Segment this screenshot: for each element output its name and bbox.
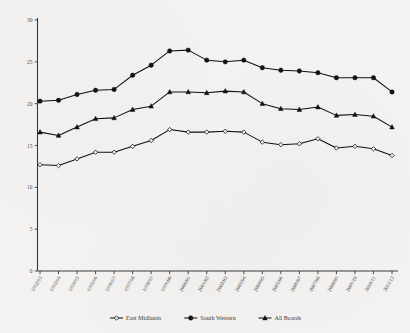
x-axis-tick-label: 1995/96 — [85, 275, 99, 293]
data-point — [56, 163, 60, 167]
data-point — [205, 58, 209, 62]
x-axis-tick-label: 1999/00 — [159, 275, 173, 293]
legend-marker-icon — [114, 316, 118, 320]
x-axis-tick-label: 1992/93 — [30, 275, 44, 293]
legend-item-south-western[interactable]: South Western — [184, 315, 235, 321]
data-point — [316, 71, 320, 75]
data-point — [112, 87, 116, 91]
y-axis: 051015202530 — [27, 17, 37, 274]
data-point — [38, 163, 42, 167]
x-axis: 1992/931993/941994/951995/961996/971997/… — [30, 271, 398, 292]
data-point — [93, 88, 97, 92]
data-point — [353, 76, 357, 80]
x-axis-tick-label: 2011/12 — [382, 275, 396, 293]
y-axis-tick-label: 15 — [27, 143, 33, 149]
data-point — [149, 138, 153, 142]
data-point — [260, 140, 264, 144]
y-axis-tick-label: 25 — [27, 59, 33, 65]
series-south-western — [38, 48, 394, 103]
data-point — [260, 101, 265, 105]
series-layer — [38, 48, 395, 168]
x-axis-tick-label: 2001/02 — [196, 275, 210, 293]
data-point — [167, 49, 171, 53]
data-point — [186, 130, 190, 134]
data-point — [279, 142, 283, 146]
series-all-boards — [38, 89, 395, 138]
line-chart: 051015202530 1992/931993/941994/951995/9… — [0, 0, 410, 333]
legend-label: South Western — [200, 315, 235, 321]
x-axis-tick-label: 1998/99 — [141, 275, 155, 293]
legend-label: East Midlands — [126, 315, 162, 321]
y-axis-tick-label: 0 — [30, 268, 33, 274]
data-point — [334, 76, 338, 80]
legend-marker-icon — [189, 316, 193, 320]
x-axis-tick-label: 2006/07 — [289, 275, 303, 293]
data-point — [260, 65, 264, 69]
x-axis-tick-label: 1993/94 — [48, 275, 62, 293]
data-point — [205, 130, 209, 134]
data-point — [223, 129, 227, 133]
x-axis-tick-label: 1994/95 — [67, 275, 81, 293]
data-point — [353, 144, 357, 148]
chart-legend: East MidlandsSouth WesternAll Boards — [110, 315, 302, 321]
data-point — [242, 58, 246, 62]
series-line — [40, 91, 392, 135]
data-point — [38, 99, 42, 103]
data-point — [112, 150, 116, 154]
data-point — [38, 130, 43, 134]
data-point — [56, 98, 60, 102]
data-point — [223, 60, 227, 64]
x-axis-tick-label: 1997/98 — [122, 275, 136, 293]
x-axis-tick-label: 2004/05 — [252, 275, 266, 293]
x-axis-tick-label: 1996/97 — [104, 275, 118, 293]
data-point — [130, 144, 134, 148]
chart-figure: 051015202530 1992/931993/941994/951995/9… — [0, 0, 410, 333]
data-point — [297, 69, 301, 73]
data-point — [390, 153, 394, 157]
data-point — [75, 157, 79, 161]
x-axis-tick-label: 2010/11 — [363, 275, 377, 293]
y-axis-tick-label: 5 — [30, 226, 33, 232]
data-point — [371, 147, 375, 151]
data-point — [390, 90, 394, 94]
data-point — [242, 130, 246, 134]
data-point — [75, 92, 79, 96]
legend-item-east-midlands[interactable]: East Midlands — [110, 315, 162, 321]
y-axis-tick-label: 30 — [27, 17, 33, 23]
series-east-midlands — [38, 127, 394, 167]
data-point — [316, 137, 320, 141]
data-point — [130, 73, 134, 77]
data-point — [149, 63, 153, 67]
y-axis-tick-label: 10 — [27, 184, 33, 190]
series-line — [40, 130, 392, 166]
x-axis-tick-label: 2002/03 — [215, 275, 229, 293]
data-point — [279, 68, 283, 72]
data-point — [297, 142, 301, 146]
data-point — [186, 48, 190, 52]
x-axis-tick-label: 2005/06 — [270, 275, 284, 293]
x-axis-tick-label: 2009/10 — [344, 275, 358, 293]
data-point — [334, 146, 338, 150]
series-line — [40, 50, 392, 101]
x-axis-tick-label: 2003/04 — [233, 275, 247, 293]
data-point — [167, 127, 171, 131]
data-point — [316, 105, 321, 109]
x-axis-tick-label: 2000/01 — [178, 275, 192, 293]
legend-item-all-boards[interactable]: All Boards — [259, 315, 302, 321]
x-axis-tick-label: 2008/09 — [326, 275, 340, 293]
y-axis-tick-label: 20 — [27, 101, 33, 107]
x-axis-tick-label: 2007/08 — [307, 275, 321, 293]
legend-label: All Boards — [275, 315, 302, 321]
data-point — [371, 76, 375, 80]
data-point — [390, 125, 395, 129]
data-point — [93, 150, 97, 154]
